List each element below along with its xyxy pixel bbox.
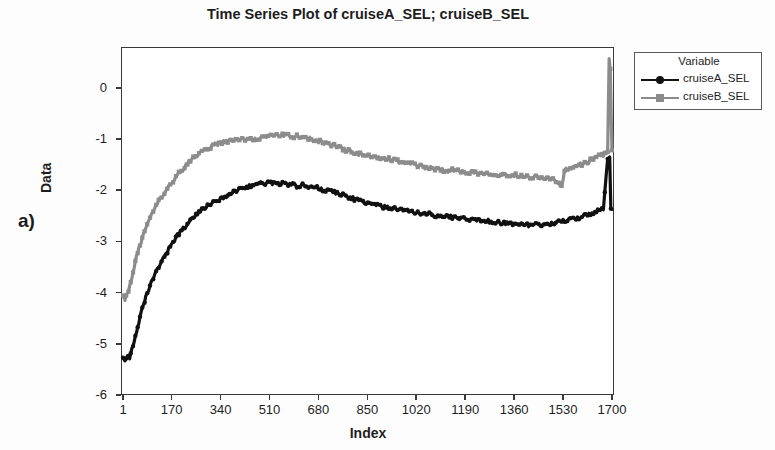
x-tick-label: 1 <box>99 402 147 417</box>
data-point <box>148 283 152 287</box>
data-point <box>159 196 163 200</box>
data-point <box>171 240 175 244</box>
data-point <box>580 164 584 168</box>
x-tick-mark <box>367 395 369 400</box>
circle-marker-icon <box>640 71 680 88</box>
x-tick-mark <box>318 395 320 400</box>
x-tick-mark <box>611 395 613 400</box>
x-tick-mark <box>415 395 417 400</box>
plot-canvas <box>121 47 614 395</box>
data-point <box>315 184 319 188</box>
y-axis-label: Data <box>38 163 54 193</box>
legend-label: cruiseB_SEL <box>683 90 749 102</box>
data-point <box>154 203 158 207</box>
data-point <box>129 280 133 284</box>
y-tick-mark <box>116 343 121 345</box>
legend-entry[interactable]: cruiseA_SEL <box>635 71 763 88</box>
y-tick-label: -6 <box>73 387 107 402</box>
data-point <box>131 344 135 348</box>
legend-label: cruiseA_SEL <box>683 72 749 84</box>
data-point <box>188 160 192 164</box>
data-point <box>208 147 212 151</box>
data-point <box>129 351 133 355</box>
data-point <box>413 161 417 165</box>
x-tick-mark <box>122 395 124 400</box>
data-point <box>603 190 607 194</box>
x-tick-mark <box>171 395 173 400</box>
data-point <box>171 180 175 184</box>
x-tick-mark <box>269 395 271 400</box>
data-point <box>191 216 195 220</box>
y-tick-mark <box>116 241 121 243</box>
panel-label: a) <box>18 210 35 232</box>
data-point <box>126 290 130 294</box>
data-point <box>148 216 152 220</box>
y-tick-mark <box>116 87 121 89</box>
figure-container: a) Time Series Plot of cruiseA_SEL; crui… <box>0 0 775 450</box>
data-point <box>585 161 589 165</box>
data-point <box>182 166 186 170</box>
data-point <box>138 315 142 319</box>
data-point <box>298 185 302 189</box>
data-point <box>165 251 169 255</box>
series-layer <box>121 59 614 361</box>
square-marker-icon <box>640 89 680 106</box>
x-axis-label: Index <box>121 425 615 441</box>
data-point <box>133 259 137 263</box>
legend-entry[interactable]: cruiseB_SEL <box>635 89 763 106</box>
data-point <box>217 199 221 203</box>
data-point <box>136 251 140 255</box>
x-tick-label: 680 <box>294 402 342 417</box>
data-point <box>263 183 267 187</box>
data-point <box>168 244 172 248</box>
data-point <box>203 206 207 210</box>
data-point <box>610 148 614 152</box>
data-point <box>208 203 212 207</box>
data-point <box>159 259 163 263</box>
data-point <box>133 333 137 337</box>
data-point <box>378 203 382 207</box>
y-tick-mark <box>116 292 121 294</box>
data-point <box>292 136 296 140</box>
data-point <box>140 235 144 239</box>
data-point <box>145 291 149 295</box>
y-tick-label: -1 <box>73 131 107 146</box>
data-point <box>609 206 613 210</box>
data-point <box>177 233 181 237</box>
y-tick-mark <box>116 138 121 140</box>
data-point <box>135 325 139 329</box>
x-tick-label: 850 <box>343 402 391 417</box>
y-tick-mark <box>116 394 121 396</box>
x-tick-mark <box>220 395 222 400</box>
series-line-cruisea_sel <box>123 157 612 361</box>
data-point <box>387 155 391 159</box>
x-tick-label: 1530 <box>539 402 587 417</box>
data-point <box>124 293 128 297</box>
y-tick-label: -5 <box>73 336 107 351</box>
x-tick-label: 1020 <box>392 402 440 417</box>
data-point <box>605 157 609 161</box>
data-point <box>140 305 144 309</box>
data-point <box>156 266 160 270</box>
legend-title: Variable <box>635 55 763 67</box>
x-tick-label: 1190 <box>441 402 489 417</box>
y-tick-label: -2 <box>73 182 107 197</box>
y-tick-label: 0 <box>73 80 107 95</box>
data-point <box>496 219 500 223</box>
y-tick-label: -3 <box>73 233 107 248</box>
x-tick-mark <box>464 395 466 400</box>
data-point <box>142 300 146 304</box>
data-point <box>138 243 142 247</box>
data-point <box>182 226 186 230</box>
legend-box: Variable cruiseA_SELcruiseB_SEL <box>634 52 762 110</box>
data-point <box>338 144 342 148</box>
data-point <box>292 181 296 185</box>
x-tick-mark <box>513 395 515 400</box>
data-point <box>145 222 149 226</box>
data-point <box>560 184 564 188</box>
data-point <box>151 277 155 281</box>
data-point <box>608 67 612 71</box>
chart-title: Time Series Plot of cruiseA_SEL; cruiseB… <box>121 6 615 22</box>
data-point <box>165 187 169 191</box>
data-point <box>151 210 155 214</box>
